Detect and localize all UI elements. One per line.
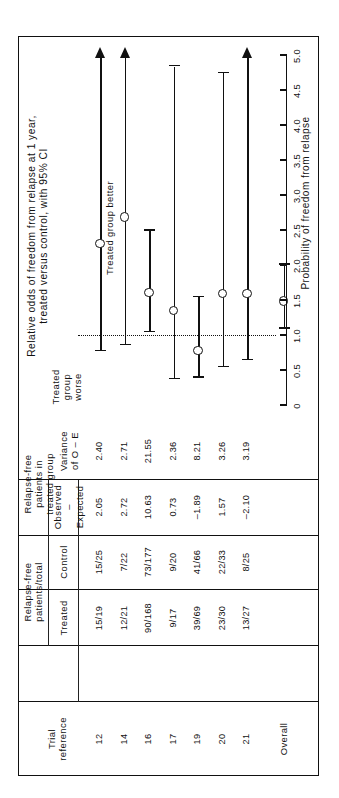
ci-upper-cap: [169, 65, 180, 67]
x-axis-tick-label: 3.5: [291, 145, 302, 177]
x-axis-tick: [280, 335, 287, 337]
confidence-interval-line: [100, 56, 102, 351]
ci-upper-arrowhead: [120, 47, 130, 58]
x-axis-tick: [280, 265, 287, 267]
x-axis-tick: [280, 230, 287, 232]
x-axis-tick-label: 1.5: [291, 285, 302, 317]
point-estimate-marker: [95, 239, 104, 248]
ci-lower-cap: [120, 344, 131, 346]
ci-lower-cap: [144, 331, 155, 333]
x-axis-tick: [280, 55, 287, 57]
x-axis-tick-label: 3.0: [291, 180, 302, 212]
point-estimate-marker: [193, 346, 202, 355]
x-axis-tick: [280, 370, 287, 372]
plot-area: [0, 0, 339, 798]
ci-upper-cap: [193, 296, 204, 298]
x-axis-tick-label: 4.5: [291, 75, 302, 107]
confidence-interval-line: [247, 56, 249, 361]
point-estimate-marker: [120, 212, 129, 221]
x-axis-tick-label: 0: [291, 390, 302, 422]
ci-upper-cap: [144, 230, 155, 232]
ci-lower-cap: [279, 328, 290, 330]
ci-lower-cap: [193, 377, 204, 379]
x-axis-tick-label: 1.0: [291, 320, 302, 352]
ci-upper-arrowhead: [242, 47, 252, 58]
ci-upper-cap: [218, 72, 229, 74]
point-estimate-marker: [144, 288, 153, 297]
ci-lower-cap: [218, 366, 229, 368]
ci-lower-cap: [242, 359, 253, 361]
point-estimate-marker: [169, 306, 178, 315]
x-axis-tick: [280, 160, 287, 162]
x-axis-tick: [280, 90, 287, 92]
x-axis-tick-label: 5.0: [291, 40, 302, 72]
confidence-interval-line: [149, 231, 151, 333]
forest-plot-figure: Trial reference Relapse-free patients/to…: [0, 0, 339, 798]
point-estimate-marker: [242, 289, 251, 298]
x-axis-tick-label: 0.5: [291, 355, 302, 387]
confidence-interval-line: [174, 67, 176, 380]
x-axis-tick-label: 2.5: [291, 215, 302, 247]
x-axis-tick-label: 4.0: [291, 110, 302, 142]
x-axis-tick: [280, 405, 287, 407]
confidence-interval-line: [125, 56, 127, 345]
x-axis-line: [286, 56, 287, 406]
rotated-figure-wrapper: Trial reference Relapse-free patients/to…: [0, 0, 339, 798]
x-axis-tick: [280, 125, 287, 127]
x-axis-tick-label: 2.0: [291, 250, 302, 282]
ci-lower-cap: [169, 378, 180, 380]
confidence-interval-line: [198, 298, 200, 379]
confidence-interval-line: [223, 74, 225, 368]
x-axis-tick: [280, 300, 287, 302]
ci-upper-arrowhead: [95, 47, 105, 58]
point-estimate-marker: [218, 289, 227, 298]
ci-lower-cap: [95, 350, 106, 352]
x-axis-tick: [280, 195, 287, 197]
